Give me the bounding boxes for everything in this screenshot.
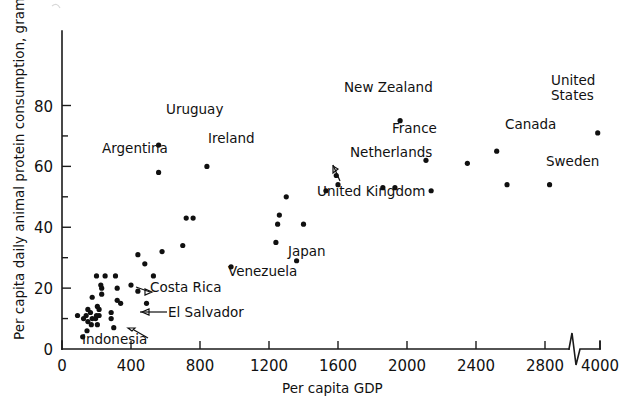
data-point [159, 249, 164, 254]
y-tick-group: 020406080 [34, 98, 71, 360]
data-point [277, 212, 282, 217]
data-point [113, 273, 118, 278]
label-netherlands: Netherlands [350, 144, 432, 160]
data-point [93, 316, 98, 321]
data-point [301, 222, 306, 227]
data-point [204, 164, 209, 169]
y-tick-label: 60 [34, 158, 53, 176]
data-point [144, 301, 149, 306]
label-united-states-2: States [551, 87, 594, 103]
y-tick-label: 80 [34, 98, 53, 116]
scan-artifact [52, 4, 60, 8]
data-point [115, 286, 120, 291]
data-point [191, 216, 196, 221]
data-point [180, 243, 185, 248]
label-japan: Japan [287, 243, 326, 259]
y-axis-title: Per capita daily animal protein consumpt… [11, 0, 27, 340]
data-point [128, 282, 133, 287]
data-point [118, 301, 123, 306]
data-point [156, 170, 161, 175]
data-point [88, 310, 93, 315]
leader-uk [333, 165, 340, 181]
data-point [275, 222, 280, 227]
data-point [95, 322, 100, 327]
data-point [94, 273, 99, 278]
data-point [135, 252, 140, 257]
data-point [75, 313, 80, 318]
data-point [184, 216, 189, 221]
data-point [429, 188, 434, 193]
y-tick-label: 40 [34, 219, 53, 237]
data-point [96, 307, 101, 312]
data-point [135, 289, 140, 294]
annotation-labels: New Zealand United States Uruguay Canada… [82, 72, 599, 347]
x-tick-label: 1600 [319, 357, 357, 375]
data-point [109, 316, 114, 321]
chart-svg: 0400800120016002000240028004000 02040608… [0, 0, 632, 413]
label-costa-rica: Costa Rica [150, 279, 221, 295]
label-sweden: Sweden [546, 153, 599, 169]
label-united-states-1: United [551, 72, 595, 88]
data-point [99, 286, 104, 291]
label-el-salvador: El Salvador [168, 304, 244, 320]
y-tick-label: 0 [43, 341, 53, 359]
x-tick-label: 1200 [250, 357, 288, 375]
label-united-kingdom: United Kingdom [317, 183, 425, 199]
label-indonesia: Indonesia [82, 331, 147, 347]
data-point [109, 310, 114, 315]
data-point [142, 261, 147, 266]
label-uruguay: Uruguay [166, 101, 223, 117]
data-point [99, 292, 104, 297]
data-point [81, 316, 86, 321]
label-argentina: Argentina [102, 140, 168, 156]
label-venezuela: Venezuela [228, 263, 297, 279]
data-point [151, 273, 156, 278]
x-tick-label: 800 [186, 357, 215, 375]
x-tick-label: 2400 [457, 357, 495, 375]
scatter-chart: 0400800120016002000240028004000 02040608… [0, 0, 632, 413]
data-point [494, 149, 499, 154]
data-point [547, 182, 552, 187]
label-ireland: Ireland [208, 130, 255, 146]
data-point [273, 240, 278, 245]
x-axis-title: Per capita GDP [282, 380, 383, 396]
x-tick-label: 2000 [388, 357, 426, 375]
data-point [465, 161, 470, 166]
x-tick-label: 400 [117, 357, 146, 375]
label-france: France [392, 120, 437, 136]
label-canada: Canada [505, 116, 556, 132]
y-tick-label: 20 [34, 280, 53, 298]
data-point [504, 182, 509, 187]
data-point [111, 325, 116, 330]
label-new-zealand: New Zealand [344, 79, 433, 95]
x-tick-label: 4000 [581, 357, 619, 375]
x-tick-label: 2800 [526, 357, 564, 375]
data-point [595, 130, 600, 135]
data-point [103, 273, 108, 278]
x-tick-label: 0 [57, 357, 67, 375]
data-point [90, 295, 95, 300]
data-point [89, 322, 94, 327]
data-point [284, 194, 289, 199]
